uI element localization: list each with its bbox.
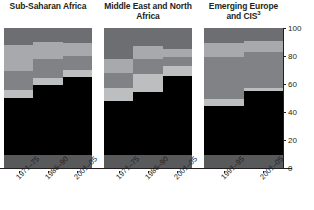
y-axis: 020406080100 xyxy=(283,28,314,168)
x-axis-labels: 1971–751986–902001–05 xyxy=(4,171,92,210)
segment-6-dark-gray-top xyxy=(204,28,244,43)
segment-6-dark-gray-top xyxy=(163,28,192,49)
y-axis-tick-label-40: 40 xyxy=(288,108,297,117)
bar-1971–75 xyxy=(4,28,33,168)
segment-3-light-gray xyxy=(163,66,192,76)
y-axis-tick xyxy=(283,140,286,141)
x-axis-labels: 1991–952001–05 xyxy=(204,171,283,210)
segment-2-black xyxy=(4,98,33,155)
chart-panel-sub-saharan-africa: Sub-Saharan Africa 1971–751986–902001–05 xyxy=(4,0,92,210)
segment-5-light-medium-gray xyxy=(33,42,62,59)
segment-5-light-medium-gray xyxy=(133,46,162,59)
segment-2-black xyxy=(104,101,133,156)
segment-4-medium-gray xyxy=(163,57,192,65)
segment-6-dark-gray-top xyxy=(133,28,162,46)
segment-2-black xyxy=(204,106,244,155)
segment-2-black xyxy=(133,92,162,155)
segment-3-light-gray xyxy=(63,70,92,77)
y-axis-tick-label-0: 0 xyxy=(288,164,292,173)
plot-area xyxy=(4,28,92,168)
x-axis-labels: 1971–751986–902001–05 xyxy=(104,171,192,210)
panel-title: Emerging Europe and CIS3 xyxy=(204,2,283,21)
segment-3-light-gray xyxy=(133,74,162,92)
segment-4-medium-gray xyxy=(204,57,244,99)
segment-5-light-medium-gray xyxy=(244,41,284,52)
segment-6-dark-gray-top xyxy=(244,28,284,41)
stacked-bar-chart-figure: Sub-Saharan Africa 1971–751986–902001–05… xyxy=(0,0,314,210)
panel-title-text: Middle East and North Africa xyxy=(104,1,192,21)
y-axis-tick xyxy=(283,56,286,57)
segment-2-black xyxy=(244,91,284,155)
y-axis-tick-label-100: 100 xyxy=(288,24,301,33)
segment-4-medium-gray xyxy=(104,73,133,88)
panel-title-text: Emerging Europe and CIS xyxy=(209,1,278,21)
panel-title: Sub-Saharan Africa xyxy=(4,2,92,12)
segment-6-dark-gray-top xyxy=(4,28,33,45)
segment-4-medium-gray xyxy=(244,52,284,88)
segment-6-dark-gray-top xyxy=(33,28,62,42)
bar-1986–90 xyxy=(133,28,162,168)
segment-4-medium-gray xyxy=(63,56,92,70)
bar-2001–05 xyxy=(163,28,192,168)
bar-1986–90 xyxy=(33,28,62,168)
segment-3-light-gray xyxy=(244,88,284,91)
segment-2-black xyxy=(63,77,92,155)
y-axis-tick xyxy=(283,84,286,85)
chart-panel-emerging-europe-and-cis: Emerging Europe and CIS3 1991–952001–05 xyxy=(204,0,283,210)
segment-6-dark-gray-top xyxy=(104,28,133,59)
segment-3-light-gray xyxy=(204,99,244,106)
y-axis-tick xyxy=(283,28,286,29)
bar-2001–05 xyxy=(63,28,92,168)
segment-4-medium-gray xyxy=(4,71,33,89)
segment-2-black xyxy=(163,76,192,156)
panel-title-superscript: 3 xyxy=(257,10,260,16)
y-axis-spine xyxy=(283,28,284,169)
segment-3-light-gray xyxy=(4,90,33,98)
panel-title-text: Sub-Saharan Africa xyxy=(10,1,87,11)
bar-1991–95 xyxy=(204,28,244,168)
plot-area xyxy=(104,28,192,168)
segment-4-medium-gray xyxy=(33,59,62,79)
segment-3-light-gray xyxy=(104,88,133,101)
segment-5-light-medium-gray xyxy=(104,59,133,73)
segment-2-black xyxy=(33,85,62,155)
x-axis-baseline xyxy=(0,168,292,169)
y-axis-tick xyxy=(283,168,286,169)
segment-5-light-medium-gray xyxy=(163,49,192,57)
segment-3-light-gray xyxy=(33,78,62,85)
panel-title: Middle East and North Africa xyxy=(104,2,192,21)
chart-panel-middle-east-and-north-africa: Middle East and North Africa 1971–751986… xyxy=(104,0,192,210)
y-axis-tick xyxy=(283,112,286,113)
y-axis-tick-label-80: 80 xyxy=(288,52,297,61)
y-axis-tick-label-20: 20 xyxy=(288,136,297,145)
segment-6-dark-gray-top xyxy=(63,28,92,43)
segment-4-medium-gray xyxy=(133,59,162,74)
segment-5-light-medium-gray xyxy=(63,43,92,56)
bar-1971–75 xyxy=(104,28,133,168)
segment-5-light-medium-gray xyxy=(4,45,33,72)
bar-2001–05 xyxy=(244,28,284,168)
segment-5-light-medium-gray xyxy=(204,43,244,57)
y-axis-tick-label-60: 60 xyxy=(288,80,297,89)
plot-area xyxy=(204,28,283,168)
